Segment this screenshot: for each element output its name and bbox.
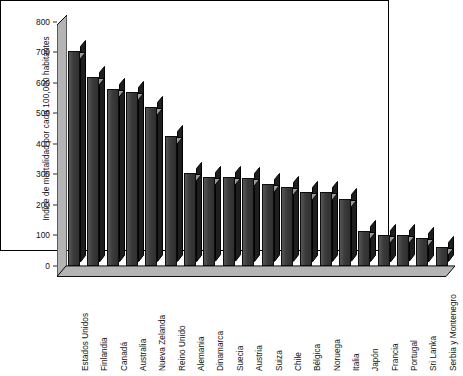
x-axis-category-label: Sri Lanka [430,336,438,371]
x-axis-category-label: Serbia y Montenegro [450,294,458,371]
x-axis-category-label: Alemania [198,336,206,371]
x-axis-category-label: Japón [372,348,380,371]
x-axis-category-label: Chile [295,352,303,371]
x-axis-category-label: Nueva Zelanda [159,315,167,371]
x-axis-category-label: Estados Unidos [82,313,90,371]
x-axis-category-label: Suecia [237,346,245,371]
x-axis-category-label: Austria [256,345,264,371]
bar-chart: Indice de mortalidad por cada 100,000 ha… [0,0,463,376]
x-axis-category-label: Noruega [334,339,342,371]
x-axis-category-labels: Estados UnidosFinlandiaCanadáAustraliaNu… [0,0,463,376]
x-axis-category-label: Francia [392,343,400,371]
x-axis-category-label: Finlandia [101,337,109,371]
x-axis-category-label: Dinamarca [217,331,225,371]
x-axis-category-label: Italia [353,353,361,371]
x-axis-category-label: Reino Unido [179,325,187,371]
x-axis-category-label: Australia [140,339,148,371]
x-axis-category-label: Bélgica [314,344,322,371]
x-axis-category-label: Suiza [276,350,284,371]
x-axis-category-label: Portugal [411,340,419,371]
x-axis-category-label: Canadá [121,342,129,371]
